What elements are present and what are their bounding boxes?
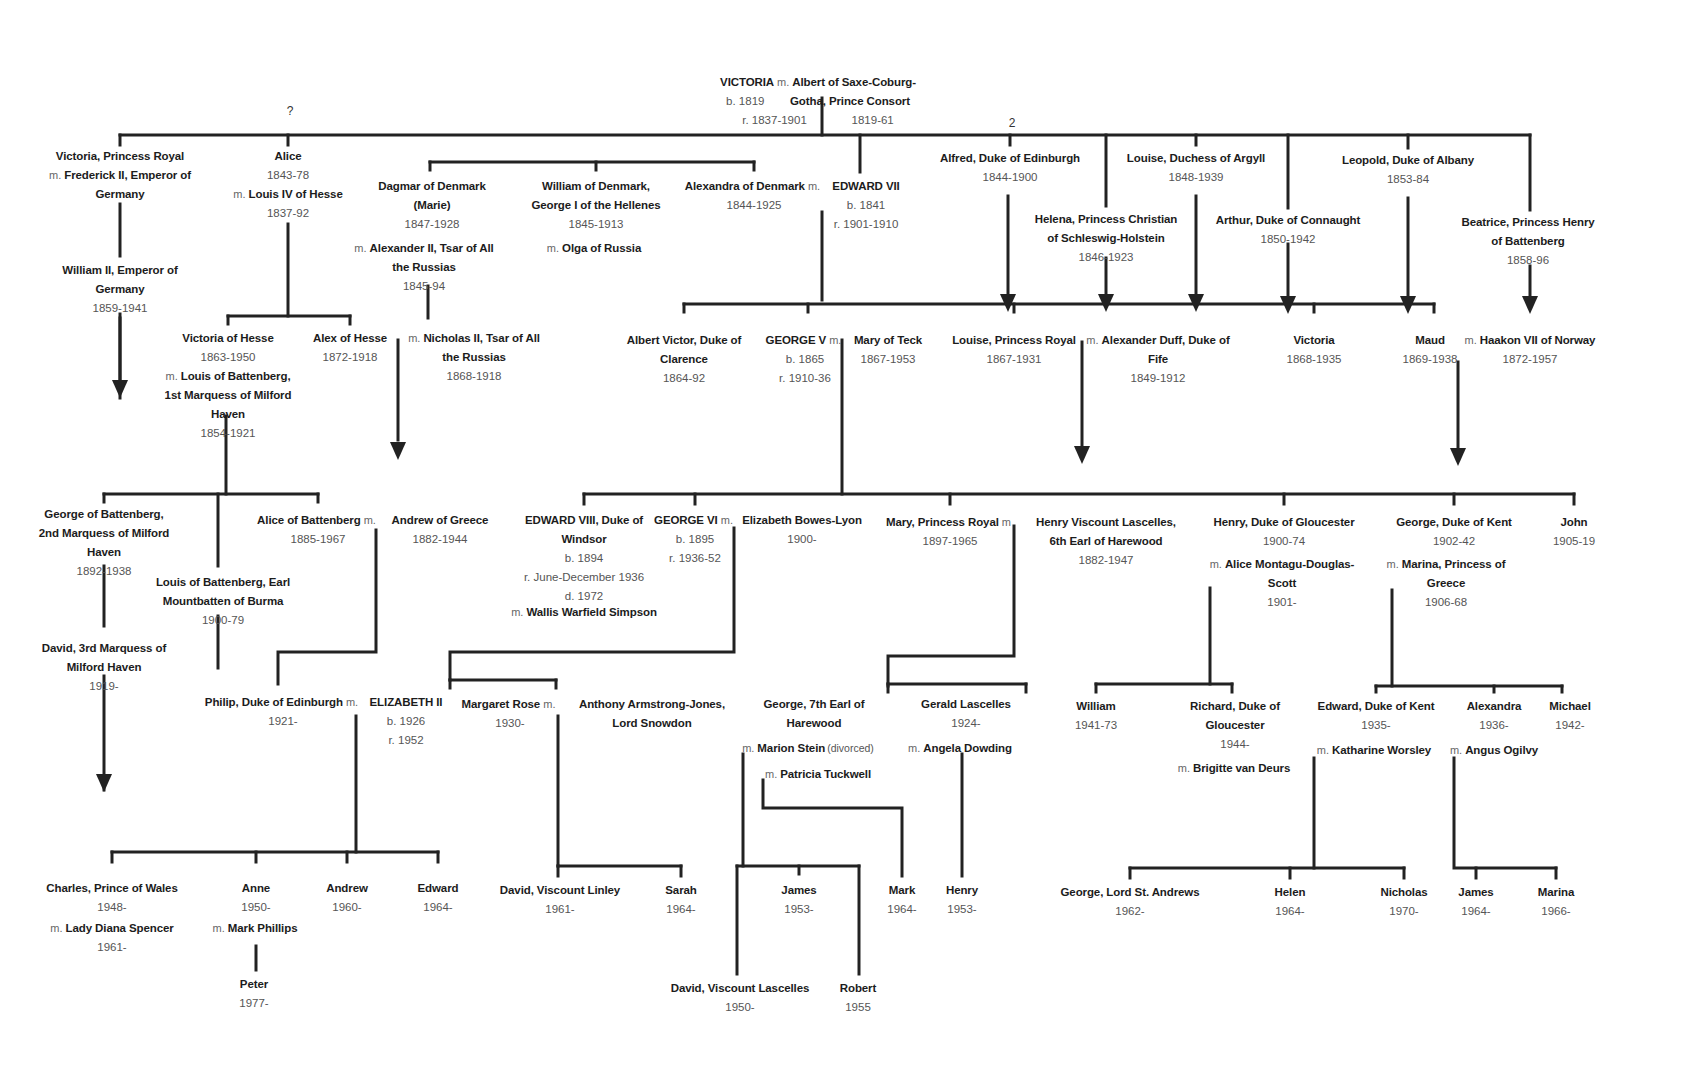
- person-name: Robert: [840, 982, 876, 994]
- person-dates: 1853-84: [1387, 173, 1429, 185]
- person-name: George of Battenberg,: [44, 508, 163, 520]
- person-node-anne: Anne1950-: [241, 878, 270, 916]
- person-name: of Schleswig-Holstein: [1047, 232, 1164, 244]
- node-line: b. 1926: [370, 711, 443, 730]
- person-node-nicholas2: m.Nicholas II, Tsar of Allthe Russias186…: [408, 328, 540, 385]
- node-line: Alice: [233, 146, 342, 165]
- person-dates: 1950-: [725, 1001, 754, 1013]
- node-line: 1977-: [239, 993, 268, 1012]
- node-line: Alex of Hesse: [313, 328, 387, 347]
- node-line: 1964-: [887, 899, 916, 918]
- node-line: 1872-1957: [1465, 349, 1596, 368]
- node-line: 1950-: [241, 897, 270, 916]
- person-dates: 1864-92: [663, 372, 705, 384]
- node-line: the Russias: [354, 257, 493, 276]
- node-line: Arthur, Duke of Connaught: [1216, 210, 1360, 229]
- person-dates: 1961-: [97, 941, 126, 953]
- person-node-david-lascelles: David, Viscount Lascelles1950-: [671, 978, 810, 1016]
- node-line: b. 1895: [654, 529, 736, 548]
- node-line: 1864-92: [627, 368, 742, 387]
- node-line: m.Katharine Worsley: [1317, 740, 1431, 759]
- person-name: William II, Emperor of: [62, 264, 177, 276]
- node-line: Louise, Princess Royal: [952, 330, 1076, 349]
- connector-line: [278, 530, 376, 684]
- node-line: r. 1952: [370, 730, 443, 749]
- node-line: Andrew: [326, 878, 368, 897]
- person-name: Gerald Lascelles: [921, 698, 1011, 710]
- person-dates: 1900-: [787, 533, 816, 545]
- person-dates: 1901-: [1267, 596, 1296, 608]
- person-dates: 1964-: [1275, 905, 1304, 917]
- person-dates: b. 1926: [387, 715, 425, 727]
- node-line: George of Battenberg,: [39, 504, 170, 523]
- person-name: Harewood: [787, 717, 842, 729]
- person-name: Dagmar of Denmark: [378, 180, 486, 192]
- node-line: Anthony Armstrong-Jones,: [579, 694, 725, 713]
- node-line: 1964-: [418, 897, 459, 916]
- person-node-peter: Peter1977-: [239, 974, 268, 1012]
- person-name: Wallis Warfield Simpson: [526, 606, 656, 618]
- node-line: GEORGE V m.: [766, 330, 845, 349]
- person-node-alexander2: m.Alexander II, Tsar of Allthe Russias18…: [354, 238, 493, 295]
- person-node-philip: Philip, Duke of Edinburgh m.1921-: [205, 692, 361, 730]
- node-line: 1845-94: [354, 276, 493, 295]
- arrow-down-icon: [96, 774, 112, 792]
- node-line: 1921-: [205, 711, 361, 730]
- node-line: David, Viscount Lascelles: [671, 978, 810, 997]
- node-line: 1944-: [1190, 734, 1280, 753]
- arrow-down-icon: [1074, 446, 1090, 464]
- node-line: m.Nicholas II, Tsar of All: [408, 328, 540, 347]
- node-line: John: [1553, 512, 1595, 531]
- node-line: 1948-: [46, 897, 177, 916]
- person-name: ELIZABETH II: [370, 696, 443, 708]
- person-dates: 1847-1928: [405, 218, 460, 230]
- node-line: James: [781, 880, 816, 899]
- person-name: Edward: [418, 882, 459, 894]
- person-node-george5: GEORGE V m.b. 1865r. 1910-36: [766, 330, 845, 387]
- node-line: r. June-December 1936: [524, 567, 644, 586]
- node-line: Albert Victor, Duke of: [627, 330, 742, 349]
- node-line: b. 1841: [832, 195, 899, 214]
- node-line: 1964-: [1275, 901, 1306, 920]
- person-name: Beatrice, Princess Henry: [1461, 216, 1594, 228]
- person-node-robert-l: Robert1955: [840, 978, 876, 1016]
- node-line: m.Lady Diana Spencer: [50, 918, 173, 937]
- person-name: Leopold, Duke of Albany: [1342, 154, 1474, 166]
- person-node-angus: m.Angus Ogilvy: [1450, 740, 1538, 759]
- node-line: 1905-19: [1553, 531, 1595, 550]
- person-dates: 1942-: [1555, 719, 1584, 731]
- node-line: William: [1075, 696, 1117, 715]
- spacer: [764, 95, 790, 107]
- arrow-down-icon: [390, 442, 406, 460]
- person-node-george-kent: George, Duke of Kent1902-42: [1396, 512, 1512, 550]
- node-line: m.Alexander II, Tsar of All: [354, 238, 493, 257]
- person-name: William of Denmark,: [542, 180, 650, 192]
- person-node-michael-kent: Michael1942-: [1549, 696, 1590, 734]
- person-dates: r. 1901-1910: [834, 218, 899, 230]
- person-node-marion: m.Marion Stein(divorced): [742, 738, 874, 757]
- person-node-richard-g: Richard, Duke ofGloucester1944-: [1190, 696, 1280, 753]
- node-line: 1900-74: [1213, 531, 1354, 550]
- node-line: Michael: [1549, 696, 1590, 715]
- node-line: Henry Viscount Lascelles,: [1036, 512, 1176, 531]
- person-dates: 1905-19: [1553, 535, 1595, 547]
- person-node-mark-phillips: m.Mark Phillips: [213, 918, 298, 937]
- person-name: Maud: [1415, 334, 1445, 346]
- person-node-victoria-d: Victoria1868-1935: [1287, 330, 1342, 368]
- node-line: 1868-1918: [408, 366, 540, 385]
- node-line: 1848-1939: [1127, 167, 1265, 186]
- person-dates: 1900-79: [202, 614, 244, 626]
- person-dates: 1941-73: [1075, 719, 1117, 731]
- person-name: Alexandra: [1467, 700, 1522, 712]
- node-line: r. 1837-1901 1819-61: [720, 110, 916, 129]
- person-name: Mountbatten of Burma: [163, 595, 284, 607]
- node-line: Germany: [49, 184, 191, 203]
- node-line: Haven: [165, 404, 292, 423]
- person-name: Patricia Tuckwell: [780, 768, 871, 780]
- node-line: 1844-1925: [685, 195, 823, 214]
- node-line: m.Marion Stein(divorced): [742, 738, 874, 757]
- person-name: Helen: [1275, 886, 1306, 898]
- person-dates: 1837-92: [267, 207, 309, 219]
- person-node-william2: William II, Emperor ofGermany1859-1941: [62, 260, 177, 317]
- node-line: Victoria of Hesse: [165, 328, 292, 347]
